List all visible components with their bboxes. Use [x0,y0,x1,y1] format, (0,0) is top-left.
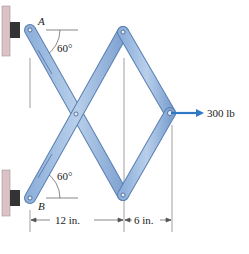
wall-support-bottom [2,170,20,216]
pin-center [74,112,78,116]
member-top-to-right [123,32,170,113]
label-force: 300 lb [207,107,235,119]
pin-a [28,28,32,32]
wall-support-top [2,6,20,56]
pin-bottom [121,193,125,197]
label-angle-top: 60° [57,42,72,54]
dimension-left-label: 12 in. [55,214,80,226]
label-pin-b: B [38,200,45,212]
label-pin-a: A [37,15,45,27]
pin-top [121,30,125,34]
force-arrow [171,109,204,117]
member-bottom-to-right [123,113,170,195]
pin-b [28,196,32,200]
label-angle-bottom: 60° [57,170,72,182]
scissor-linkage-diagram: A B 60° 60° 300 lb 12 in. 6 in. [0,0,249,254]
dimension-right-label: 6 in. [134,214,154,226]
